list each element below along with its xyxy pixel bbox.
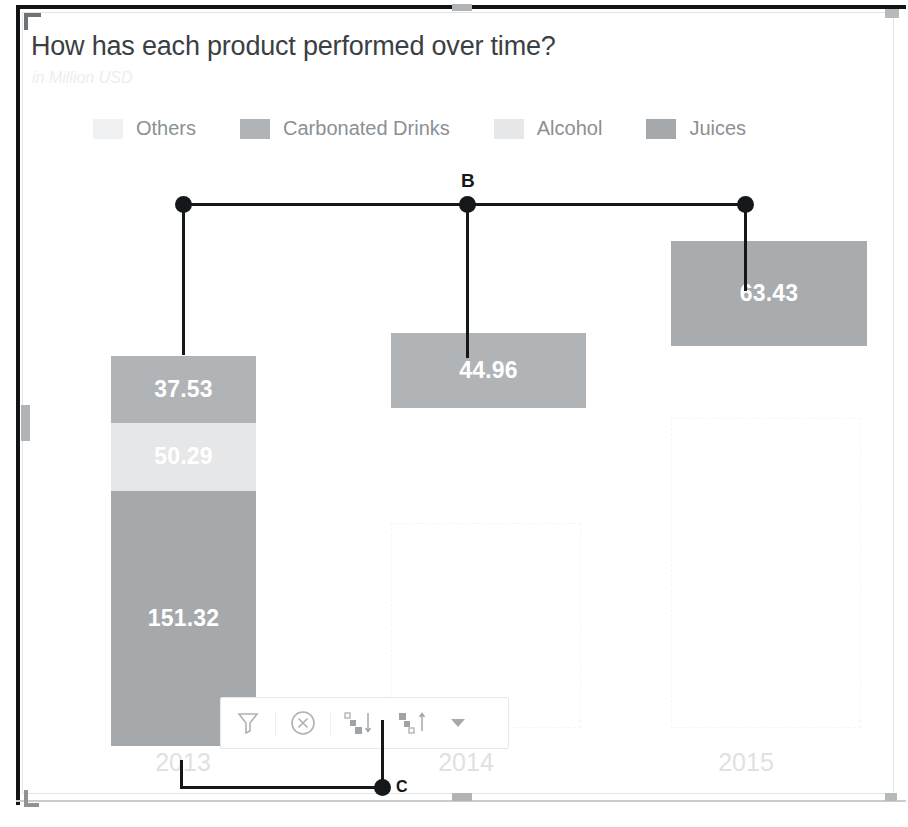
bar-segment-2013-alcohol[interactable]: 50.29 [111,423,256,491]
chart-subtitle: in Million USD [32,69,132,87]
bar-value-label: 37.53 [111,375,256,402]
legend-label: Others [136,117,196,140]
bar-segment-2015-carbonated-drinks[interactable]: 63.43 [671,241,867,346]
resize-handle-bottom-left[interactable] [24,790,39,807]
sort-ascending-icon [343,710,373,736]
legend-swatch-icon [494,119,524,139]
resize-handle-bottom-middle[interactable] [452,793,472,801]
x-tick-label-2014: 2014 [366,748,566,777]
bar-value-label: 50.29 [111,443,256,470]
sort-options-button[interactable] [439,698,477,748]
bar-value-label: 63.43 [671,279,867,306]
chevron-down-icon [450,717,466,729]
legend-item-juices[interactable]: Juices [646,117,746,140]
chart-legend: Others Carbonated Drinks Alcohol Juices [93,117,790,140]
x-tick-label-2015: 2015 [646,748,846,777]
plot-area: 37.53 50.29 151.32 44.96 63.43 [23,163,893,743]
chart-toolbar[interactable] [220,697,509,749]
clear-filter-button[interactable] [276,698,330,748]
resize-handle-top-left[interactable] [24,13,41,30]
filter-button[interactable] [221,698,275,748]
x-tick-label-2013: 2013 [83,748,283,777]
resize-handle-top-right[interactable] [885,9,899,18]
bar-segment-2014-carbonated-drinks[interactable]: 44.96 [391,333,586,408]
sort-ascending-button[interactable] [331,698,385,748]
legend-label: Alcohol [537,117,603,140]
bar-value-label: 44.96 [391,356,586,383]
window-border-left [16,5,20,805]
ghost-bar-outline-2015 [671,418,861,728]
chart-title: How has each product performed over time… [31,31,556,62]
resize-handle-top-middle[interactable] [452,4,472,11]
sort-descending-button[interactable] [385,698,439,748]
legend-swatch-icon [646,119,676,139]
legend-item-carbonated-drinks[interactable]: Carbonated Drinks [240,117,450,140]
circle-x-icon [289,709,317,737]
x-axis: 2013 2014 2015 [23,748,893,788]
legend-swatch-icon [93,119,123,139]
resize-handle-bottom-right[interactable] [885,793,897,801]
chart-canvas[interactable]: How has each product performed over time… [23,13,893,793]
bar-segment-2013-carbonated-drinks[interactable]: 37.53 [111,356,256,423]
resize-handle-left-middle[interactable] [21,405,30,441]
legend-swatch-icon [240,119,270,139]
bar-value-label: 151.32 [111,604,256,631]
legend-item-alcohol[interactable]: Alcohol [494,117,603,140]
legend-label: Carbonated Drinks [283,117,450,140]
funnel-icon [235,710,261,736]
legend-item-others[interactable]: Others [93,117,196,140]
sort-descending-icon [397,710,427,736]
legend-label: Juices [689,117,746,140]
